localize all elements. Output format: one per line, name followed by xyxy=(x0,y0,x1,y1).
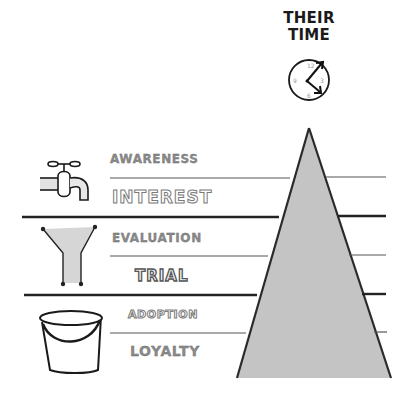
stage-label-evaluation: EVALUATION xyxy=(112,231,202,245)
stage-label-trial: TRIAL xyxy=(135,267,189,285)
title-line-1: THEIR xyxy=(270,10,348,27)
time-triangle xyxy=(237,128,391,378)
clock-numeral-3: 3 xyxy=(320,77,324,84)
clock-numeral-12: 12 xyxy=(307,62,315,69)
stage-label-adoption: ADOPTION xyxy=(128,308,198,321)
title-line-2: TIME xyxy=(270,27,348,44)
diagram: 12 3 6 9 xyxy=(0,0,409,399)
bucket-icon xyxy=(40,311,102,373)
stage-label-awareness: AWARENESS xyxy=(110,152,199,166)
stage-label-loyalty: LOYALTY xyxy=(130,343,200,359)
their-time-title: THEIR TIME xyxy=(270,10,348,44)
clock-numeral-6: 6 xyxy=(307,92,311,99)
funnel-icon xyxy=(41,225,97,286)
tap-icon xyxy=(40,162,88,201)
clock-icon: 12 3 6 9 xyxy=(289,60,329,100)
stage-label-interest: INTEREST xyxy=(112,187,212,207)
clock-numeral-9: 9 xyxy=(293,77,297,84)
